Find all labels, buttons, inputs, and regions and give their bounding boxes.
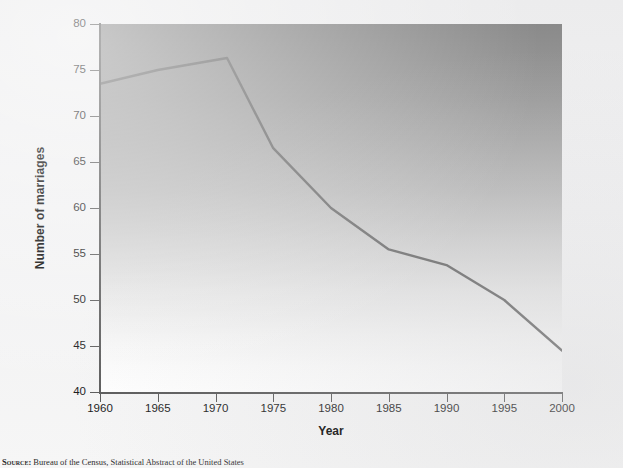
- y-tick-60: [90, 208, 100, 209]
- x-tick-label-1985: 1985: [367, 403, 411, 415]
- source-note-lead: Source:: [2, 457, 31, 467]
- x-tick-1990: [447, 393, 448, 402]
- x-tick-label-1965: 1965: [136, 403, 180, 415]
- y-tick-55: [90, 254, 100, 255]
- chart-svg: [100, 24, 562, 392]
- x-tick-label-1975: 1975: [251, 403, 295, 415]
- source-note: Source: Bureau of the Census, Statistica…: [2, 457, 602, 467]
- figure-root: 404550556065707580 196019651970197519801…: [0, 0, 623, 468]
- marriages-line-series: [100, 58, 562, 351]
- y-tick-80: [90, 24, 100, 25]
- x-tick-label-1980: 1980: [309, 403, 353, 415]
- x-tick-2000: [562, 393, 563, 402]
- x-tick-label-1970: 1970: [194, 403, 238, 415]
- x-tick-label-1995: 1995: [482, 403, 526, 415]
- x-axis-title: Year: [100, 424, 562, 438]
- y-tick-label-50: 50: [60, 294, 86, 306]
- y-tick-label-70: 70: [60, 110, 86, 122]
- x-tick-1980: [331, 393, 332, 402]
- y-tick-40: [90, 392, 100, 393]
- x-tick-1985: [389, 393, 390, 402]
- y-tick-label-45: 45: [60, 340, 86, 352]
- y-tick-label-55: 55: [60, 248, 86, 260]
- x-tick-1965: [158, 393, 159, 402]
- y-axis-title: Number of marriages: [33, 147, 47, 270]
- y-tick-label-40: 40: [60, 386, 86, 398]
- y-tick-label-80: 80: [60, 18, 86, 30]
- y-tick-label-75: 75: [60, 64, 86, 76]
- plot-area: [100, 24, 562, 392]
- y-tick-label-60: 60: [60, 202, 86, 214]
- y-tick-label-65: 65: [60, 156, 86, 168]
- y-tick-65: [90, 162, 100, 163]
- x-tick-label-2000: 2000: [540, 403, 584, 415]
- x-tick-label-1990: 1990: [425, 403, 469, 415]
- x-tick-1975: [273, 393, 274, 402]
- source-note-text: Bureau of the Census, Statistical Abstra…: [31, 457, 244, 467]
- x-tick-1970: [216, 393, 217, 402]
- y-tick-75: [90, 70, 100, 71]
- x-tick-1995: [504, 393, 505, 402]
- x-tick-label-1960: 1960: [78, 403, 122, 415]
- y-tick-70: [90, 116, 100, 117]
- x-tick-1960: [100, 393, 101, 402]
- y-tick-45: [90, 346, 100, 347]
- y-tick-50: [90, 300, 100, 301]
